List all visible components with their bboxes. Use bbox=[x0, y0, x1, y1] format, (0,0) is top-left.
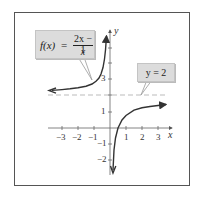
function-label-pointer bbox=[78, 57, 92, 80]
fraction-denominator: x bbox=[73, 46, 93, 57]
function-label: f(x) = 2x − 1 x bbox=[35, 30, 95, 59]
graph-canvas bbox=[0, 0, 199, 198]
y-tick-label: 3 bbox=[101, 73, 106, 83]
y-tick-label: −1 bbox=[97, 138, 107, 148]
function-name: f(x) bbox=[40, 39, 55, 51]
asymptote-label-pointer bbox=[141, 80, 152, 95]
x-axis-label: x bbox=[168, 129, 172, 140]
y-tick-label: −2 bbox=[97, 154, 107, 164]
x-tick-label: −2 bbox=[72, 132, 82, 142]
y-axis-label: y bbox=[114, 25, 118, 36]
asymptote-label-text: y = 2 bbox=[146, 67, 167, 78]
x-tick-label: 1 bbox=[124, 132, 129, 142]
equals-sign: = bbox=[61, 39, 67, 51]
x-tick-label: 3 bbox=[156, 132, 161, 142]
asymptote-label: y = 2 bbox=[137, 63, 175, 82]
x-tick-label: 2 bbox=[140, 132, 145, 142]
y-tick-label: 1 bbox=[101, 106, 106, 116]
x-tick-label: −3 bbox=[56, 132, 66, 142]
